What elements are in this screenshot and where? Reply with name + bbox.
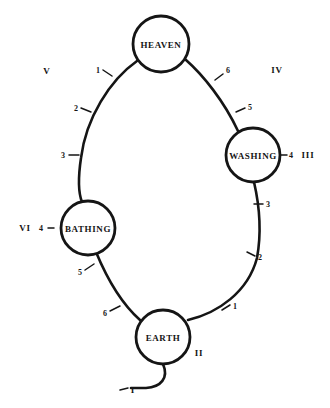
tickmark-vi-6 <box>110 306 120 311</box>
tickmark-iv-6 <box>215 74 223 80</box>
roman-label-ii: II <box>195 348 204 358</box>
arc-tick-label-v-3: 3 <box>61 151 65 160</box>
arc-tick-label-vi-6: 6 <box>103 309 107 318</box>
node-tick-label-bathing-4: 4 <box>39 224 43 233</box>
arc-tick-label-ii-1: 1 <box>233 302 237 311</box>
arc-tick-label-ii-2: 2 <box>258 253 262 262</box>
diagram-canvas: HEAVEN WASHING BATHING EARTH 1 2 3 6 5 3… <box>0 0 330 408</box>
arc-earth-tail <box>131 364 165 388</box>
roman-label-vi: VI <box>19 223 31 233</box>
roman-label-i: I <box>131 385 135 395</box>
arc-heaven-washing <box>186 60 238 131</box>
tickmark-iv-5 <box>236 108 245 112</box>
arc-tick-label-iv-5: 5 <box>248 103 252 112</box>
arc-tick-label-iii-3: 3 <box>266 200 270 209</box>
node-label-washing: WASHING <box>229 151 277 161</box>
node-label-heaven: HEAVEN <box>141 40 182 50</box>
roman-label-iv: IV <box>271 65 283 75</box>
diagram-svg <box>0 0 330 408</box>
arc-heaven-bathing <box>79 61 137 202</box>
arc-washing-earth <box>188 182 259 320</box>
node-tick-label-washing-4: 4 <box>289 151 293 160</box>
node-label-earth: EARTH <box>146 333 181 343</box>
tickmark-v-1 <box>103 70 112 76</box>
roman-label-v: V <box>43 66 50 76</box>
arc-tick-label-iv-6: 6 <box>226 66 230 75</box>
tickmark-vi-5 <box>85 264 94 270</box>
tickmark-v-2 <box>81 108 91 112</box>
roman-label-iii: III <box>302 150 315 160</box>
node-label-bathing: BATHING <box>65 224 111 234</box>
arc-tick-label-vi-5: 5 <box>78 268 82 277</box>
tickmark-earth-i <box>120 388 128 390</box>
tickmark-ii-2 <box>247 252 255 256</box>
arc-tick-label-v-1: 1 <box>96 66 100 75</box>
arc-tick-label-v-2: 2 <box>74 104 78 113</box>
